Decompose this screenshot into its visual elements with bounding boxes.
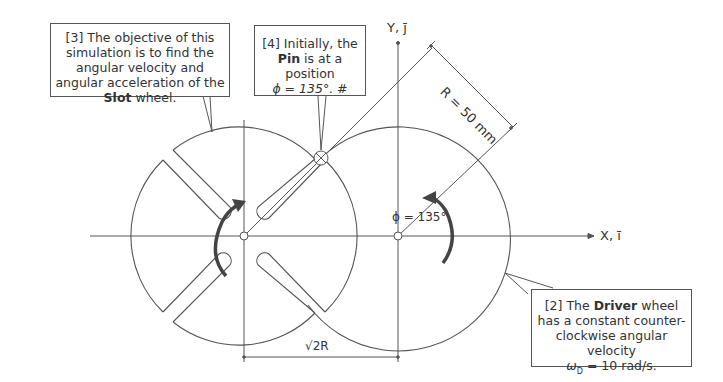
x-axis-arrowhead <box>588 234 594 239</box>
angle-label: ϕ = 135° <box>392 210 447 224</box>
driver-wheel <box>308 127 510 351</box>
pin-icon <box>314 151 328 165</box>
driver-wheel-center <box>394 232 402 240</box>
y-axis-label: Y, j̄ <box>387 20 407 35</box>
callout-pin-position: [4] Initially, the Pin is at a position … <box>254 25 366 96</box>
callout-driver-velocity: [2] The Driver wheel has a constant coun… <box>531 289 692 367</box>
center-distance-label: √2R <box>305 339 329 353</box>
driver-wheel-rotation-arrow <box>422 191 452 263</box>
callout-4-pointer <box>318 96 326 150</box>
x-axis-label: X, ī <box>600 228 621 243</box>
callout-objective: [3] The objective of this simulation is … <box>50 23 230 97</box>
slot-wheel-center <box>240 232 248 240</box>
callout-3-pointer <box>203 96 212 132</box>
